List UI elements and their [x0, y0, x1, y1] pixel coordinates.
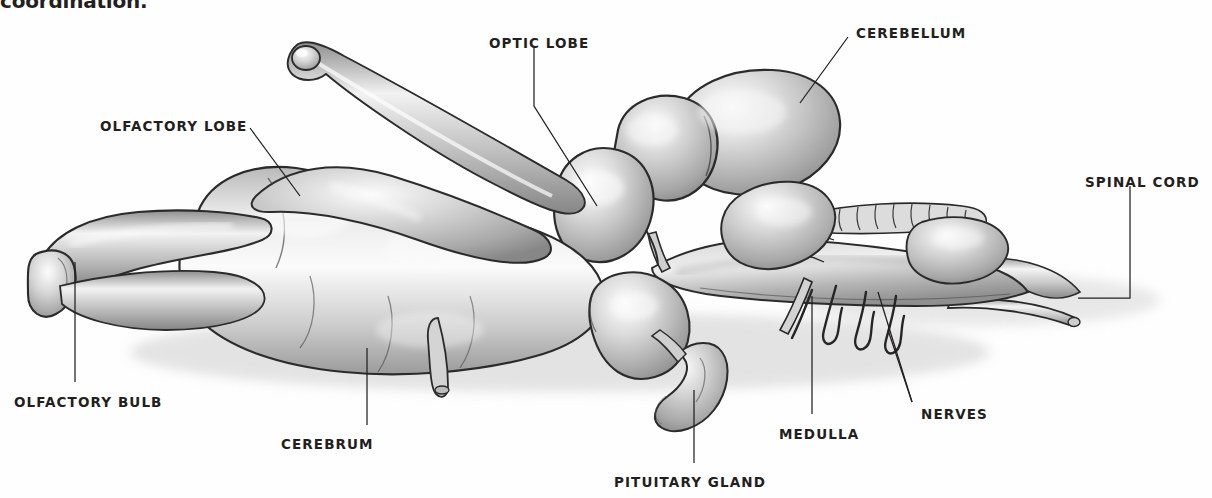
label-optic-lobe: OPTIC LOBE [489, 37, 589, 51]
figure-canvas: coordination. [0, 0, 1212, 498]
label-nerves: NERVES [921, 408, 988, 422]
label-olfactory-bulb: OLFACTORY BULB [14, 396, 162, 410]
ventral-frontal-lobe [60, 271, 265, 330]
label-olfactory-lobe: OLFACTORY LOBE [100, 120, 247, 134]
label-spinal-cord: SPINAL CORD [1085, 176, 1200, 190]
posterior-lobe [907, 217, 1008, 283]
label-pituitary-gland: PITUITARY GLAND [614, 476, 766, 490]
label-cerebrum: CEREBRUM [281, 438, 374, 452]
brain-illustration [0, 0, 1212, 498]
label-medulla: MEDULLA [779, 428, 859, 442]
label-cerebellum: CEREBELLUM [856, 27, 966, 41]
